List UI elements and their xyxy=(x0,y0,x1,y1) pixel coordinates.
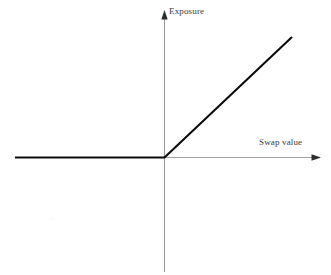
x-axis-arrow-icon xyxy=(312,154,322,161)
data-line-path xyxy=(15,37,292,158)
y-axis-label: Exposure xyxy=(169,7,204,16)
x-axis-label: Swap value xyxy=(259,138,302,147)
exposure-profile-line xyxy=(15,37,292,158)
y-axis-arrow-icon xyxy=(161,10,167,20)
chart-container: Exposure Swap value xyxy=(0,0,331,275)
scan-artifact xyxy=(50,216,55,221)
x-axis xyxy=(165,154,322,161)
y-axis xyxy=(161,10,167,272)
